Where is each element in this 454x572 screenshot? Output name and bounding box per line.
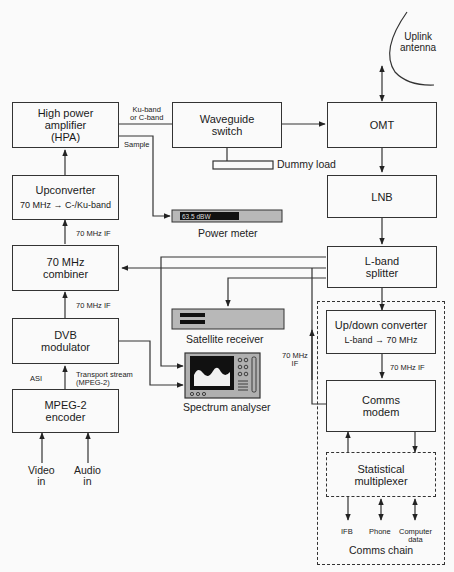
stat-mux-label: Statistical multiplexer xyxy=(354,463,407,487)
video-in-label: Video in xyxy=(28,465,55,487)
satellite-receiver-caption: Satellite receiver xyxy=(186,333,264,345)
combiner-block: 70 MHz combiner xyxy=(12,245,119,291)
asi-label: ASI xyxy=(30,375,42,383)
hpa-label: High power amplifier (HPA) xyxy=(38,107,94,143)
lband-splitter-block: L-band splitter xyxy=(327,246,437,288)
updown-converter-label: Up/down converter xyxy=(335,319,427,331)
updown-converter-sublabel: L-band → 70 MHz xyxy=(344,334,417,346)
waveguide-switch-label: Waveguide switch xyxy=(200,113,255,137)
hpa-block: High power amplifier (HPA) xyxy=(12,102,119,148)
if-upconverter-label: 70 MHz IF xyxy=(76,230,111,238)
waveguide-switch-block: Waveguide switch xyxy=(172,102,282,148)
omt-label: OMT xyxy=(370,119,394,131)
power-meter-reading: 63.5 dBW xyxy=(182,213,211,220)
dummy-load-caption: Dummy load xyxy=(277,158,336,170)
upconverter-label: Upconverter xyxy=(36,184,96,196)
comms-modem-label: Comms modem xyxy=(362,394,400,418)
stat-mux-block: Statistical multiplexer xyxy=(326,452,436,497)
spectrum-analyser-caption: Spectrum analyser xyxy=(183,401,271,413)
transport-stream-label: Transport stream (MPEG-2) xyxy=(76,371,133,387)
upconverter-sublabel: 70 MHz → C-/Ku-band xyxy=(20,199,111,211)
combiner-label: 70 MHz combiner xyxy=(43,256,88,280)
dvb-modulator-block: DVB modulator xyxy=(12,318,119,364)
if-modem-label: 70 MHz IF xyxy=(390,364,425,372)
comms-chain-caption: Comms chain xyxy=(349,544,413,556)
computer-data-label: Computer data xyxy=(399,528,432,544)
omt-block: OMT xyxy=(327,102,437,148)
if-combiner-label: 70 MHz IF xyxy=(76,302,111,310)
dummy-load-icon xyxy=(213,161,273,169)
satellite-receiver-icon xyxy=(172,309,284,329)
upconverter-block: Upconverter 70 MHz → C-/Ku-band xyxy=(12,175,119,220)
if-return-label: 70 MHz IF xyxy=(282,352,308,368)
comms-modem-block: Comms modem xyxy=(326,380,436,432)
lnb-label: LNB xyxy=(371,191,392,203)
audio-in-label: Audio in xyxy=(74,465,101,487)
phone-label: Phone xyxy=(369,528,391,536)
lnb-block: LNB xyxy=(327,175,437,218)
spectrum-analyser-icon xyxy=(185,353,260,398)
dvb-modulator-label: DVB modulator xyxy=(41,329,90,353)
lband-splitter-label: L-band splitter xyxy=(365,255,399,279)
ku-c-band-label: Ku-band or C-band xyxy=(130,106,163,122)
updown-converter-block: Up/down converter L-band → 70 MHz xyxy=(326,310,436,354)
uplink-antenna-caption: Uplink antenna xyxy=(400,31,436,53)
mpeg2-encoder-label: MPEG-2 encoder xyxy=(44,399,86,423)
power-meter-caption: Power meter xyxy=(198,227,258,239)
sample-label: Sample xyxy=(124,141,149,149)
mpeg2-encoder-block: MPEG-2 encoder xyxy=(12,389,119,433)
ifb-label: IFB xyxy=(341,528,353,536)
